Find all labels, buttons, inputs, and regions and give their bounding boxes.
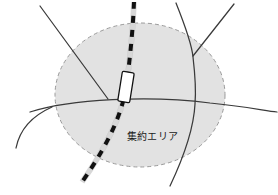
consolidation-area-label: 集約エリア <box>127 130 178 142</box>
consolidation-area-map: 集約エリア <box>0 0 278 195</box>
road-northeast-branch <box>193 4 234 56</box>
road-southwest-curve <box>16 107 52 148</box>
consolidation-area-shape <box>55 23 225 167</box>
map-canvas: 集約エリア <box>0 0 278 195</box>
